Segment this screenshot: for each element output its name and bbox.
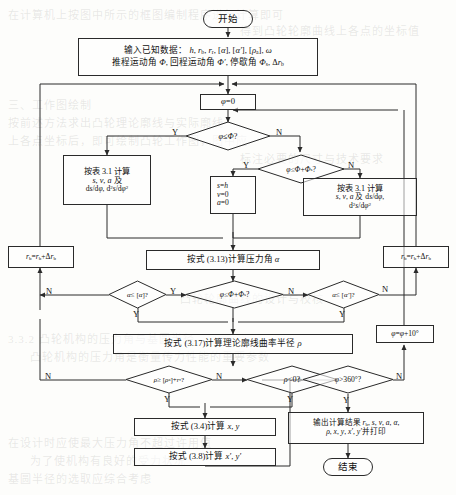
scan-bleed-text: 三、工作图绘制	[8, 96, 92, 112]
node-input-data[interactable]: 输入已知数据： h, rb, rr, [α], [α′], [ρa], ω 推程…	[78, 38, 318, 76]
edge-label-no-phi-mid: N	[288, 286, 294, 296]
node-calc-table-right[interactable]: 按表 3.1 计算 s, v, a 及 ds/dφ, d2s/dφ2	[303, 178, 417, 216]
node-decision-rho-ge[interactable]: ρ ≥ [ρa]+rr?	[126, 366, 212, 393]
edge-label-yes-rho-ge: Y	[164, 394, 170, 404]
node-calc-table-left-line3: ds/dφ, d2s/dφ2	[86, 185, 129, 194]
node-start-label: 开始	[218, 14, 238, 25]
node-calc-curvature-radius[interactable]: 按式 (3.17)计算理论廓线曲率半径 ρ	[113, 334, 353, 354]
node-calc-xy-prime-label: 按式 (3.8)计算 x′, y′	[169, 452, 241, 462]
node-calc-table-left[interactable]: 按表 3.1 计算 s, v, a 及 ds/dφ, d2s/dφ2	[63, 155, 151, 205]
edge-label-yes-phi-le-phi: Y	[172, 127, 178, 137]
node-end[interactable]: 结束	[323, 458, 373, 476]
node-end-label: 结束	[338, 462, 358, 473]
node-decision-alpha-le[interactable]: α ≤ [α]?	[109, 281, 166, 308]
node-decision-phi-gt-360[interactable]: φ>360°?	[303, 366, 393, 393]
edge-label-yes-rho-lt-zero: Y	[287, 394, 293, 404]
node-rb-increment-left-label: rb=rb+Δrb	[26, 253, 56, 262]
node-calc-table-left-line1: 按表 3.1 计算	[84, 167, 130, 176]
edge-label-no-rho-ge: N	[45, 371, 51, 381]
node-phi-init[interactable]: φ=0	[200, 94, 256, 110]
edge-label-no-phi-gt-360: N	[396, 371, 402, 381]
node-calc-pressure-angle-label: 按式 (3.13)计算压力角 α	[187, 255, 280, 265]
edge-label-yes-phi-le-phi-phis: Y	[243, 160, 249, 170]
edge-label-no-alpha-prime: N	[382, 284, 388, 294]
node-calc-xy[interactable]: 按式 (3.4)计算 x, y	[134, 418, 276, 436]
node-calc-table-right-line3: d2s/dφ2	[349, 202, 371, 211]
node-decision-alpha-prime-le[interactable]: α ≤ [α′]?	[308, 281, 379, 308]
node-rb-increment-left[interactable]: rb=rb+Δrb	[8, 246, 74, 268]
node-phi-increment[interactable]: φ=φ+10°	[376, 325, 434, 343]
node-rb-increment-right-label: rb=rb+Δrb	[401, 253, 431, 262]
node-calc-pressure-angle[interactable]: 按式 (3.13)计算压力角 α	[146, 250, 320, 270]
node-input-line2: 推程运动角 Φ, 回程运动角 Φ′, 停歇角 Φs, Δrb	[112, 58, 284, 68]
edge-label-yes-alpha-prime-down: Y	[339, 309, 345, 319]
node-dwell[interactable]: s=h v=0 a=0	[210, 176, 256, 214]
node-calc-xy-label: 按式 (3.4)计算 x, y	[171, 422, 240, 432]
node-rb-increment-right[interactable]: rb=rb+Δrb	[383, 246, 449, 268]
node-phi-increment-label: φ=φ+10°	[391, 330, 419, 339]
edge-label-no-rho-ge-right: N	[216, 371, 222, 381]
edge-label-no-phi-le-phi-phis: N	[348, 160, 354, 170]
edge-label-yes-alpha-le-down: Y	[133, 309, 139, 319]
node-decision-phi-le-phi[interactable]: φ ≤ Φ?	[186, 122, 270, 150]
edge-label-yes-phi-gt-360: Y	[343, 395, 349, 405]
edge-label-yes-alpha-le: Y	[170, 286, 176, 296]
node-input-line1: 输入已知数据： h, rb, rr, [α], [α′], [ρa], ω	[124, 46, 272, 56]
node-output-results-line2: ρ, x, y, x′, y′并打印	[326, 428, 386, 437]
node-phi-init-label: φ=0	[221, 97, 235, 107]
node-dwell-line3: a=0	[217, 199, 229, 208]
node-decision-phi-mid[interactable]: φ ≤ Φ+Φs?	[186, 281, 283, 308]
edge-label-no-phi-le-phi: N	[276, 127, 282, 137]
node-calc-xy-prime[interactable]: 按式 (3.8)计算 x′, y′	[134, 448, 276, 466]
node-output-results[interactable]: 输出计算结果 rb, s, v, a, α, ρ, x, y, x′, y′并打…	[288, 412, 424, 444]
node-calc-curvature-radius-label: 按式 (3.17)计算理论廓线曲率半径 ρ	[164, 339, 301, 349]
scan-bleed-text: 得到凸轮轮廓曲线上各点的坐标值	[240, 22, 420, 38]
flowchart-canvas: 在计算机上按图中所示的框图编制程序进行计算即可得到凸轮轮廓曲线上各点的坐标值三、…	[0, 0, 456, 495]
edge-label-no-alpha-le: N	[46, 286, 52, 296]
node-start[interactable]: 开始	[203, 10, 253, 28]
scan-bleed-text: 基圆半径的选取应综合考虑	[8, 470, 152, 486]
